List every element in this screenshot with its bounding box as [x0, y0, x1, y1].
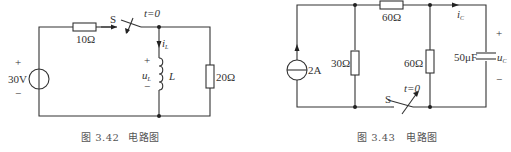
source-voltage-label: 30V: [8, 73, 27, 85]
current-source-icon: [287, 44, 307, 80]
resistor-60-shunt-icon: [426, 50, 434, 73]
capacitor-voltage-label: uC: [497, 51, 508, 64]
capacitor-minus-sign: −: [496, 73, 502, 85]
switch-icon: [388, 91, 419, 114]
figure-caption-title: 电路图: [128, 131, 160, 143]
figure-caption-number: 图 3.42: [81, 132, 119, 143]
capacitor-plus-sign: +: [496, 27, 502, 39]
wire-bottom: [39, 88, 210, 116]
wire-right-bottom: [413, 61, 486, 107]
figure-3-43: 2A 30Ω 60Ω 60Ω iC 50μF uC + −: [287, 1, 508, 143]
resistor-60-series-icon: [380, 1, 403, 9]
resistor-60-shunt-label: 60Ω: [404, 57, 423, 69]
node-dot: [353, 3, 357, 7]
current-arrow-icon: [452, 3, 459, 8]
resistor-30-label: 30Ω: [331, 57, 350, 69]
circuit-diagrams: + 30V − 10Ω S t=0 iL + uL − L 20Ω 图: [0, 0, 511, 152]
inductor-minus-sign: −: [144, 80, 150, 92]
wire-top-right: [141, 27, 210, 65]
wire-bottom-left: [297, 80, 391, 107]
resistor-20-icon: [206, 65, 214, 88]
switch-time-label: t=0: [404, 82, 420, 94]
node-dot: [428, 105, 432, 109]
node-dot: [428, 3, 432, 7]
source-minus-sign: −: [15, 87, 21, 99]
switch-label: S: [385, 93, 391, 105]
voltage-source-icon: [29, 69, 49, 89]
capacitor-value-label: 50μF: [454, 51, 477, 63]
node-dot: [157, 114, 161, 118]
wire-top-right: [403, 5, 486, 52]
node-dot: [157, 25, 161, 29]
switch-icon: [101, 18, 141, 34]
current-arrow-icon: [157, 41, 162, 48]
resistor-10-label: 10Ω: [76, 33, 95, 45]
resistor-30-icon: [351, 51, 359, 75]
current-source-label: 2A: [308, 64, 322, 76]
resistor-20-label: 20Ω: [216, 71, 235, 83]
inductor-label: L: [168, 70, 175, 82]
inductor-plus-sign: +: [144, 54, 150, 66]
resistor-10-icon: [73, 23, 96, 31]
figure-3-42: + 30V − 10Ω S t=0 iL + uL − L 20Ω 图: [8, 7, 235, 143]
figure-caption-number: 图 3.43: [357, 132, 395, 143]
inductor-current-label: iL: [162, 37, 169, 50]
capacitor-icon: [476, 53, 496, 59]
wire-top-left: [297, 5, 380, 60]
capacitor-current-label: iC: [457, 8, 465, 21]
switch-time-label: t=0: [144, 7, 160, 19]
wire-top-left: [39, 27, 73, 69]
inductor-icon: [159, 58, 163, 90]
source-plus-sign: +: [15, 56, 21, 68]
node-dot: [353, 105, 357, 109]
switch-label: S: [110, 13, 116, 25]
figure-caption-title: 电路图: [406, 131, 438, 143]
resistor-60-series-label: 60Ω: [382, 11, 401, 23]
